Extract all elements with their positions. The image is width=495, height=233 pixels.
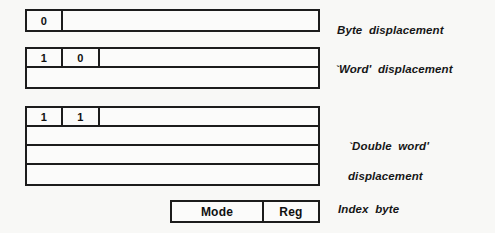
bit-cell-mode-1: 1 bbox=[27, 108, 63, 125]
word-displacement-group: 1 0 bbox=[25, 47, 320, 89]
bit-cell-displacement-byte1 bbox=[27, 68, 318, 87]
bit-cell-mode-1: 1 bbox=[27, 49, 63, 66]
byte-displacement-group: 0 bbox=[25, 9, 320, 32]
index-byte-mode-cell: Mode bbox=[172, 202, 264, 221]
byte-displacement-label: Byte displacement bbox=[337, 23, 444, 38]
byte-row: 1 1 bbox=[27, 108, 318, 127]
displacement-diagram: 0 Byte displacement 1 0 `Word' displacem… bbox=[0, 0, 495, 233]
word-displacement-label: `Word' displacement bbox=[335, 62, 453, 77]
byte-row bbox=[27, 146, 318, 165]
byte-row: 1 0 bbox=[27, 49, 318, 68]
byte-row bbox=[27, 165, 318, 184]
index-byte-group: Mode Reg bbox=[170, 200, 320, 223]
byte-row: Mode Reg bbox=[172, 202, 318, 221]
double-word-displacement-group: 1 1 bbox=[25, 106, 320, 186]
bit-cell-displacement-byte0 bbox=[100, 108, 318, 125]
double-word-displacement-label: `Double word' displacement bbox=[335, 124, 429, 214]
byte-row bbox=[27, 127, 318, 146]
byte-row bbox=[27, 68, 318, 87]
bit-cell-displacement-byte3 bbox=[27, 165, 318, 184]
bit-cell-mode-0: 0 bbox=[27, 11, 63, 30]
bit-cell-displacement-byte0 bbox=[100, 49, 318, 66]
bit-cell-displacement-byte0 bbox=[63, 11, 318, 30]
index-byte-reg-cell: Reg bbox=[264, 202, 318, 221]
double-word-label-line1: `Double word' bbox=[348, 140, 429, 152]
double-word-label-line2: displacement bbox=[335, 169, 429, 184]
index-byte-label: Index byte bbox=[338, 202, 399, 217]
bit-cell-mode-1b: 1 bbox=[63, 108, 100, 125]
bit-cell-mode-0: 0 bbox=[63, 49, 100, 66]
bit-cell-displacement-byte1 bbox=[27, 127, 318, 144]
bit-cell-displacement-byte2 bbox=[27, 146, 318, 163]
byte-row: 0 bbox=[27, 11, 318, 30]
